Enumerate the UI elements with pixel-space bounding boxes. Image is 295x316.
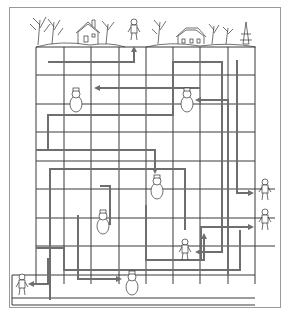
- maze-grid: [12, 47, 275, 305]
- maze-path: [48, 62, 222, 180]
- maze-path: [30, 258, 48, 284]
- maze-path: [36, 230, 240, 270]
- tree-icon: [102, 21, 114, 44]
- child-icon: [179, 239, 191, 260]
- tree-icon: [30, 17, 63, 45]
- maze-paths: [30, 48, 252, 300]
- maze-path: [146, 205, 204, 260]
- child-icon: [259, 209, 271, 230]
- child-icon: [16, 274, 28, 295]
- house-icon: [76, 20, 100, 44]
- pine-tree-icon: [240, 22, 252, 44]
- maze-characters: [16, 19, 271, 295]
- snowman-icon: [151, 175, 163, 199]
- maze-path: [201, 227, 252, 260]
- house-icon: [176, 28, 206, 44]
- child-icon: [128, 19, 140, 40]
- tree-icon: [152, 20, 233, 44]
- maze-canvas: [0, 0, 295, 316]
- winter-scene-top: [30, 17, 256, 47]
- snowman-icon: [97, 210, 109, 234]
- snow-ground: [36, 43, 125, 47]
- maze-path: [237, 60, 252, 193]
- snowman-icon: [181, 88, 193, 112]
- child-icon: [259, 179, 271, 200]
- maze-puzzle: [0, 0, 295, 316]
- snowman-icon: [70, 88, 82, 112]
